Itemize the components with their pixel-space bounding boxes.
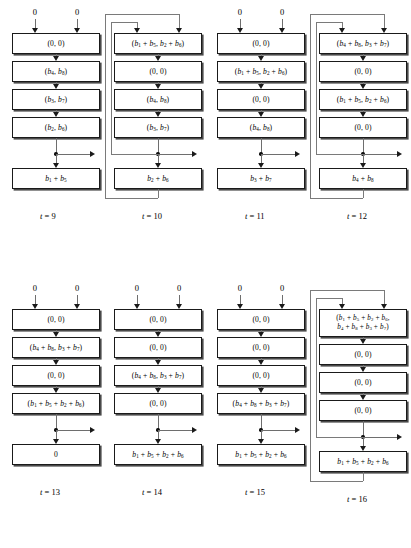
tap-output-wire	[363, 437, 397, 438]
tap-output-arrowhead	[397, 434, 402, 440]
stage-box-label: (b4 + b8, b3 + b7)	[337, 39, 389, 48]
feedback-inner-bottom	[316, 154, 363, 155]
feedback-outer-left	[310, 14, 311, 198]
feedback-outer-left	[310, 290, 311, 481]
stage-box: (0, 0)	[319, 117, 407, 138]
feedback-arrowhead	[339, 28, 345, 33]
time-step-t12: (b4 + b8, b3 + b7)(0, 0)(b1 + b5, b2 + b…	[0, 0, 411, 272]
stage-box-label: (b1 + b5 + b2 + b6,b4 + b8 + b3 + b7)	[336, 314, 389, 332]
stage-arrowhead	[360, 367, 366, 372]
feedback-outer-top	[310, 290, 384, 291]
feedback-inner-left	[316, 298, 317, 437]
feedback-outer-down	[363, 472, 364, 481]
stage-box: (b1 + b5 + b2 + b6,b4 + b8 + b3 + b7)	[319, 309, 407, 337]
stage-box-label: (0, 0)	[354, 406, 371, 415]
stage-box: (0, 0)	[319, 61, 407, 82]
output-box-label: b1 + b5 + b2 + b6	[337, 457, 389, 466]
time-step-caption: t = 12	[347, 211, 367, 221]
feedback-outer-bottom	[310, 481, 363, 482]
stage-arrowhead	[360, 56, 366, 61]
feedback-inner-top	[316, 22, 342, 23]
stage-box-label: (0, 0)	[354, 67, 371, 76]
output-box: b4 + b8	[319, 168, 407, 189]
stage-box: (b4 + b8, b3 + b7)	[319, 33, 407, 54]
feedback-outer-bottom	[310, 198, 363, 199]
feedback-inner-left	[316, 22, 317, 154]
feedback-arrowhead	[381, 304, 387, 309]
time-step-t16: (b1 + b5 + b2 + b6,b4 + b8 + b3 + b7)(0,…	[0, 276, 411, 548]
stage-box-label: (0, 0)	[354, 378, 371, 387]
stage-arrowhead	[360, 84, 366, 89]
feedback-outer-right-down	[384, 290, 385, 304]
output-box: b1 + b5 + b2 + b6	[319, 451, 407, 472]
feedback-outer-top	[310, 14, 384, 15]
feedback-outer-down	[363, 189, 364, 198]
feedback-arrowhead	[381, 28, 387, 33]
stage-box-label: (0, 0)	[354, 123, 371, 132]
feedback-inner-right-down	[342, 22, 343, 28]
feedback-inner-bottom	[316, 437, 363, 438]
stage-box-label: (b1 + b5, b2 + b6)	[337, 95, 389, 104]
tap-output-arrowhead	[397, 151, 402, 157]
feedback-arrowhead	[339, 304, 345, 309]
stage-arrowhead	[360, 395, 366, 400]
stage-box-label: (0, 0)	[354, 350, 371, 359]
figure-canvas: 00(0, 0)(b4, b8)(b3, b7)(b2, b6)b1 + b5t…	[0, 0, 411, 548]
feedback-outer-right-down	[384, 14, 385, 28]
stage-box: (0, 0)	[319, 400, 407, 421]
tap-output-wire	[363, 154, 397, 155]
output-box-label: b4 + b8	[352, 174, 374, 183]
feedback-inner-top	[316, 298, 342, 299]
stage-box: (0, 0)	[319, 372, 407, 393]
stage-box: (b1 + b5, b2 + b6)	[319, 89, 407, 110]
stage-arrowhead	[360, 112, 366, 117]
feedback-inner-right-down	[342, 298, 343, 304]
stage-arrowhead	[360, 339, 366, 344]
time-step-caption: t = 16	[347, 494, 367, 504]
stage-box: (0, 0)	[319, 344, 407, 365]
